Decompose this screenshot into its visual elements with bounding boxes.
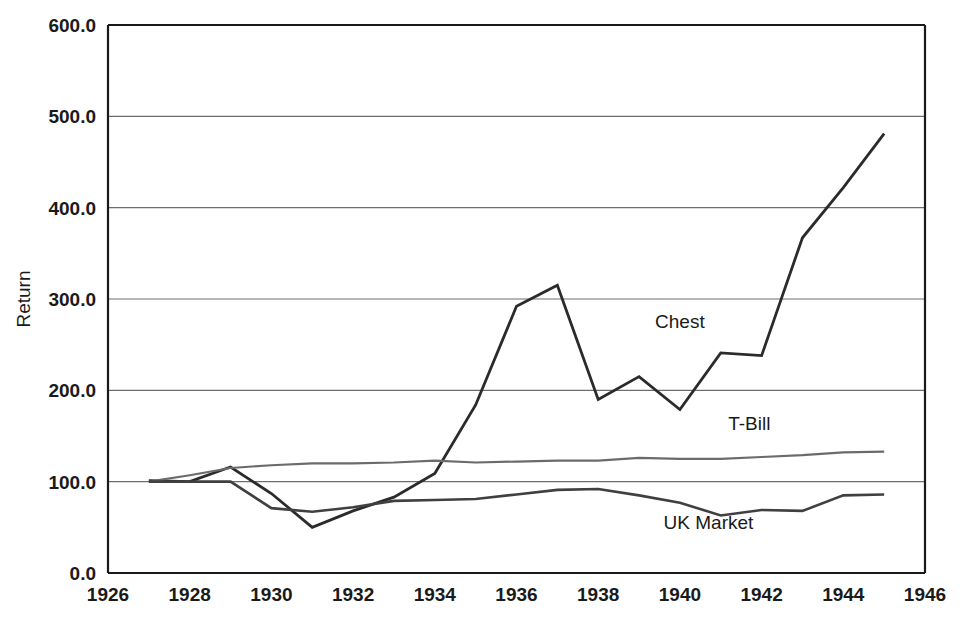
- x-tick-label-1942: 1942: [740, 584, 782, 605]
- y-tick-label-400.0: 400.0: [48, 198, 96, 219]
- series-label-chest: Chest: [655, 311, 705, 332]
- y-tick-label-500.0: 500.0: [48, 106, 96, 127]
- x-tick-label-1938: 1938: [577, 584, 619, 605]
- y-tick-label-100.0: 100.0: [48, 472, 96, 493]
- y-tick-label-0.0: 0.0: [70, 563, 96, 584]
- x-tick-label-1926: 1926: [87, 584, 129, 605]
- return-line-chart: 0.0100.0200.0300.0400.0500.0600.0 192619…: [0, 0, 965, 640]
- x-tick-label-1928: 1928: [169, 584, 211, 605]
- y-tick-label-200.0: 200.0: [48, 380, 96, 401]
- x-tick-label-1944: 1944: [822, 584, 865, 605]
- chart-background: [0, 0, 965, 640]
- x-tick-label-1940: 1940: [659, 584, 701, 605]
- chart-canvas: 0.0100.0200.0300.0400.0500.0600.0 192619…: [0, 0, 965, 640]
- y-axis-title: Return: [13, 270, 34, 327]
- series-label-t-bill: T-Bill: [728, 413, 770, 434]
- x-tick-label-1932: 1932: [332, 584, 374, 605]
- x-tick-label-1946: 1946: [904, 584, 946, 605]
- y-tick-label-600.0: 600.0: [48, 15, 96, 36]
- y-tick-label-300.0: 300.0: [48, 289, 96, 310]
- x-tick-label-1930: 1930: [250, 584, 292, 605]
- series-label-uk-market: UK Market: [664, 512, 754, 533]
- x-tick-label-1936: 1936: [495, 584, 537, 605]
- x-tick-label-1934: 1934: [414, 584, 457, 605]
